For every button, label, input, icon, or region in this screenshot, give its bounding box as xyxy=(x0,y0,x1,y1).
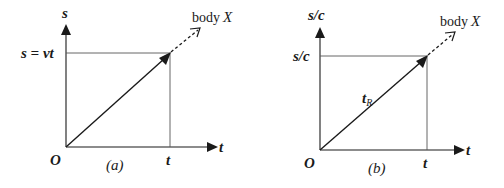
panel-a-y-axis-arrow-icon xyxy=(61,24,71,35)
panel-b-y-marker-label: s/c xyxy=(292,48,310,64)
panel-a-worldline-arrow-icon xyxy=(159,52,171,65)
panel-a-caption: (a) xyxy=(106,157,124,174)
panel-b-worldline-label: tR xyxy=(362,90,372,108)
panel-b-dashed-extension xyxy=(428,34,453,55)
panel-b-y-axis-label: s/c xyxy=(307,7,325,23)
spacetime-diagram-figure: s s = vt bodyX O (a) t t s/c s/c tR bo xyxy=(0,0,504,188)
panel-b-origin-label: O xyxy=(304,155,315,171)
panel-b: s/c s/c tR bodyX O (b) t t xyxy=(292,7,481,177)
panel-b-object-label: bodyX xyxy=(440,13,481,29)
panel-b-worldline-arrow-icon xyxy=(416,55,428,68)
panel-a-x-axis-label: t xyxy=(219,139,224,155)
panel-b-y-axis-arrow-icon xyxy=(315,27,325,38)
panel-b-x-axis-arrow-icon xyxy=(454,145,465,155)
panel-a-dashed-arrow-icon xyxy=(190,28,200,37)
panel-a-y-axis-label: s xyxy=(61,5,68,21)
panel-b-x-axis-label: t xyxy=(466,142,471,158)
panel-a-origin-label: O xyxy=(50,152,61,168)
panel-b-x-marker-label: t xyxy=(423,155,428,171)
panel-b-caption: (b) xyxy=(368,160,386,177)
panel-a: s s = vt bodyX O (a) t t xyxy=(20,5,233,174)
panel-a-y-marker-label: s = vt xyxy=(20,45,55,61)
panel-a-x-marker-label: t xyxy=(166,152,171,168)
panel-a-dashed-extension xyxy=(171,30,198,52)
panel-a-object-label: bodyX xyxy=(192,9,233,25)
panel-a-worldline xyxy=(66,59,164,147)
panel-a-x-axis-arrow-icon xyxy=(207,142,218,152)
